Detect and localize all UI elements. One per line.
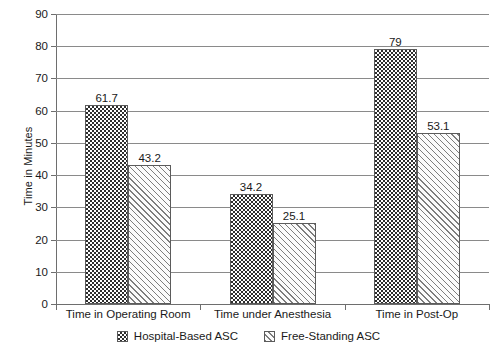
x-axis-category-label: Time in Post-Op [376, 308, 459, 320]
legend-swatch-icon [117, 331, 128, 342]
bar-value-label: 43.2 [138, 152, 160, 164]
y-axis-tick [51, 14, 56, 15]
legend-item: Hospital-Based ASC [117, 330, 238, 342]
y-axis-tick [51, 143, 56, 144]
legend-swatch-icon [264, 331, 275, 342]
bar-value-label: 61.7 [95, 92, 117, 104]
legend-item: Free-Standing ASC [264, 330, 380, 342]
y-axis-tick-label: 30 [35, 201, 48, 213]
y-axis-tick [51, 175, 56, 176]
bar: 61.7 [85, 105, 128, 304]
y-axis-tick-label: 90 [35, 8, 48, 20]
x-axis-tick [200, 304, 201, 310]
legend-label: Hospital-Based ASC [134, 330, 238, 342]
bar-value-label: 34.2 [240, 181, 262, 193]
bar-value-label: 25.1 [283, 210, 305, 222]
y-axis-tick-label: 60 [35, 105, 48, 117]
legend-label: Free-Standing ASC [281, 330, 380, 342]
plot-area: 010203040506070809061.743.234.225.17953.… [56, 14, 489, 304]
x-axis-category-label: Time in Operating Room [66, 308, 191, 320]
x-axis-tick [345, 304, 346, 310]
y-axis-tick-label: 50 [35, 137, 48, 149]
bar: 34.2 [230, 194, 273, 304]
gridline [56, 14, 489, 15]
bar-chart: Time in Minutes 010203040506070809061.74… [0, 0, 497, 351]
gridline [56, 78, 489, 79]
x-axis-line [56, 304, 490, 305]
y-axis-tick-label: 10 [35, 266, 48, 278]
gridline [56, 46, 489, 47]
bar-value-label: 79 [389, 36, 402, 48]
y-axis-tick-label: 0 [42, 298, 48, 310]
y-axis-tick-label: 20 [35, 234, 48, 246]
x-axis-tick [489, 304, 490, 310]
y-axis-tick [51, 78, 56, 79]
y-axis-tick-label: 70 [35, 72, 48, 84]
x-axis-tick [56, 304, 57, 310]
bar: 25.1 [273, 223, 316, 304]
x-axis-category-label: Time under Anesthesia [214, 308, 331, 320]
bar: 79 [374, 49, 417, 304]
y-axis-tick-label: 40 [35, 169, 48, 181]
bar: 43.2 [128, 165, 171, 304]
y-axis-tick [51, 272, 56, 273]
y-axis-tick [51, 111, 56, 112]
y-axis-tick [51, 46, 56, 47]
bar-value-label: 53.1 [427, 120, 449, 132]
y-axis-tick-label: 80 [35, 40, 48, 52]
y-axis-tick [51, 207, 56, 208]
y-axis-title: Time in Minutes [22, 86, 34, 246]
bar: 53.1 [417, 133, 460, 304]
y-axis-tick [51, 240, 56, 241]
chart-legend: Hospital-Based ASCFree-Standing ASC [0, 330, 497, 342]
